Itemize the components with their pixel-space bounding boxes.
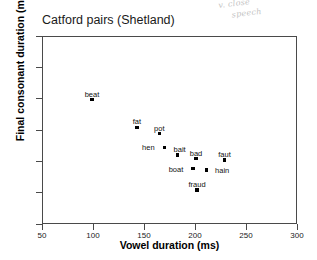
data-point-label: fraud — [188, 180, 205, 189]
x-tick-mark — [246, 224, 247, 230]
data-point-label: beat — [85, 90, 100, 99]
x-tick-mark — [195, 224, 196, 230]
x-tick-mark — [42, 224, 43, 230]
data-point-marker — [191, 167, 194, 170]
data-point-label: bad — [190, 149, 203, 158]
data-point-label: faut — [218, 150, 231, 159]
x-tick-label: 250 — [226, 231, 266, 240]
x-tick-label: 50 — [22, 231, 62, 240]
x-tick-label: 300 — [277, 231, 317, 240]
data-point-label: pot — [154, 124, 164, 133]
data-point-label: bait — [174, 145, 186, 154]
data-point-label: boat — [169, 165, 184, 174]
x-tick-label: 150 — [124, 231, 164, 240]
x-tick-mark — [144, 224, 145, 230]
data-point-marker — [163, 146, 166, 149]
x-axis-label: Vowel duration (ms) — [42, 239, 297, 251]
y-axis-label: Final consonant duration (ms) — [14, 0, 26, 166]
x-tick-mark — [297, 224, 298, 230]
data-point-label: hain — [215, 166, 229, 175]
plot-area: beatfatpothenbaitbadfautboathainfraud — [42, 36, 297, 224]
data-point-label: hen — [142, 143, 155, 152]
x-tick-mark — [93, 224, 94, 230]
x-tick-label: 100 — [73, 231, 113, 240]
data-point-label: fat — [133, 117, 141, 126]
data-point-marker — [205, 168, 208, 171]
chart-title: Catford pairs (Shetland) — [42, 13, 297, 27]
scatter-chart-figure: v. close speech Catford pairs (Shetland)… — [0, 0, 317, 260]
x-tick-label: 200 — [175, 231, 215, 240]
